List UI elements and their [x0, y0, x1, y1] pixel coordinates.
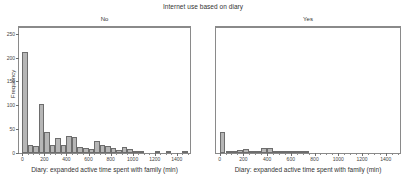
x-axis-minor-tick	[350, 153, 351, 155]
x-axis-minor-tick	[273, 153, 274, 155]
plot-box-no: 0200400600800100012001400050100150200250	[18, 27, 191, 154]
x-axis-tick-label: 600	[287, 156, 295, 162]
y-axis-tick	[16, 129, 19, 130]
y-axis-tick	[16, 81, 19, 82]
y-axis-tick	[16, 153, 19, 154]
x-axis-minor-tick	[285, 153, 286, 155]
y-axis: 050100150200250	[5, 28, 19, 153]
y-axis-tick	[16, 105, 19, 106]
x-axis-tick-label: 0	[21, 156, 24, 162]
plot-area	[216, 28, 400, 153]
x-axis-minor-tick	[83, 153, 84, 155]
x-axis-minor-tick	[160, 153, 161, 155]
x-axis-minor-tick	[368, 153, 369, 155]
x-axis-minor-tick	[237, 153, 238, 155]
y-axis-tick	[16, 58, 19, 59]
y-axis-tick	[16, 34, 19, 35]
x-axis-label-right: Diary: expanded active time spent with f…	[215, 166, 401, 173]
x-axis-tick-label: 800	[310, 156, 318, 162]
x-axis-minor-tick	[226, 153, 227, 155]
x-axis-tick-label: 400	[263, 156, 271, 162]
x-axis-tick-label: 1200	[149, 156, 160, 162]
x-axis-tick-label: 1400	[171, 156, 182, 162]
panel-strip-label: No	[18, 14, 191, 25]
x-axis-minor-tick	[279, 153, 280, 155]
x-axis-minor-tick	[398, 153, 399, 155]
x-axis-tick-label: 600	[84, 156, 92, 162]
x-axis-tick-label: 400	[62, 156, 70, 162]
x-axis-minor-tick	[249, 153, 250, 155]
x-axis-minor-tick	[33, 153, 34, 155]
x-axis-tick-label: 1200	[356, 156, 367, 162]
x-axis-minor-tick	[297, 153, 298, 155]
figure-title: Internet use based on diary	[0, 3, 406, 10]
plot-area	[19, 28, 190, 153]
x-axis: 0200400600800100012001400	[216, 153, 400, 167]
x-axis-minor-tick	[332, 153, 333, 155]
x-axis-minor-tick	[380, 153, 381, 155]
x-axis-minor-tick	[28, 153, 29, 155]
x-axis-minor-tick	[77, 153, 78, 155]
y-axis-tick-label: 50	[9, 126, 15, 132]
x-axis-minor-tick	[122, 153, 123, 155]
y-axis-tick-label: 0	[12, 150, 15, 156]
histogram-bar	[22, 52, 28, 153]
y-axis-tick-label: 150	[7, 78, 15, 84]
x-axis-minor-tick	[188, 153, 189, 155]
x-axis-minor-tick	[61, 153, 62, 155]
x-axis-minor-tick	[344, 153, 345, 155]
x-axis-tick-label: 1000	[127, 156, 138, 162]
x-axis-minor-tick	[374, 153, 375, 155]
x-axis-minor-tick	[116, 153, 117, 155]
panel-strip-no: No	[18, 14, 191, 27]
figure-histogram-panel: Internet use based on diary Frequency No…	[0, 0, 406, 181]
x-axis-minor-tick	[144, 153, 145, 155]
y-axis-tick-label: 100	[7, 102, 15, 108]
x-axis-tick-label: 200	[239, 156, 247, 162]
x-axis-minor-tick	[326, 153, 327, 155]
x-axis-minor-tick	[55, 153, 56, 155]
panel-yes: Yes0200400600800100012001400	[215, 14, 401, 154]
x-axis-minor-tick	[127, 153, 128, 155]
x-axis-minor-tick	[309, 153, 310, 155]
x-axis-minor-tick	[182, 153, 183, 155]
x-axis-tick-label: 1000	[333, 156, 344, 162]
x-axis-minor-tick	[171, 153, 172, 155]
x-axis-minor-tick	[138, 153, 139, 155]
x-axis-minor-tick	[72, 153, 73, 155]
y-axis-tick-label: 250	[7, 31, 15, 37]
x-axis-minor-tick	[392, 153, 393, 155]
x-axis: 0200400600800100012001400	[19, 153, 190, 167]
x-axis-tick-label: 200	[40, 156, 48, 162]
histogram-bar	[220, 132, 226, 153]
x-axis-label-left: Diary: expanded active time spent with f…	[18, 166, 191, 173]
x-axis-tick-label: 1400	[380, 156, 391, 162]
y-axis-tick-label: 200	[7, 55, 15, 61]
x-axis-tick-label: 800	[106, 156, 114, 162]
panel-no: No02004006008001000120014000501001502002…	[18, 14, 191, 154]
panel-strip-yes: Yes	[215, 14, 401, 27]
x-axis-tick-label: 0	[218, 156, 221, 162]
plot-box-yes: 0200400600800100012001400	[215, 27, 401, 154]
x-axis-minor-tick	[356, 153, 357, 155]
x-axis-minor-tick	[50, 153, 51, 155]
x-axis-minor-tick	[255, 153, 256, 155]
x-axis-minor-tick	[105, 153, 106, 155]
x-axis-minor-tick	[320, 153, 321, 155]
x-axis-minor-tick	[100, 153, 101, 155]
x-axis-minor-tick	[303, 153, 304, 155]
panel-strip-label: Yes	[215, 14, 401, 25]
x-axis-minor-tick	[39, 153, 40, 155]
x-axis-minor-tick	[149, 153, 150, 155]
x-axis-minor-tick	[166, 153, 167, 155]
x-axis-minor-tick	[231, 153, 232, 155]
x-axis-minor-tick	[261, 153, 262, 155]
x-axis-minor-tick	[94, 153, 95, 155]
